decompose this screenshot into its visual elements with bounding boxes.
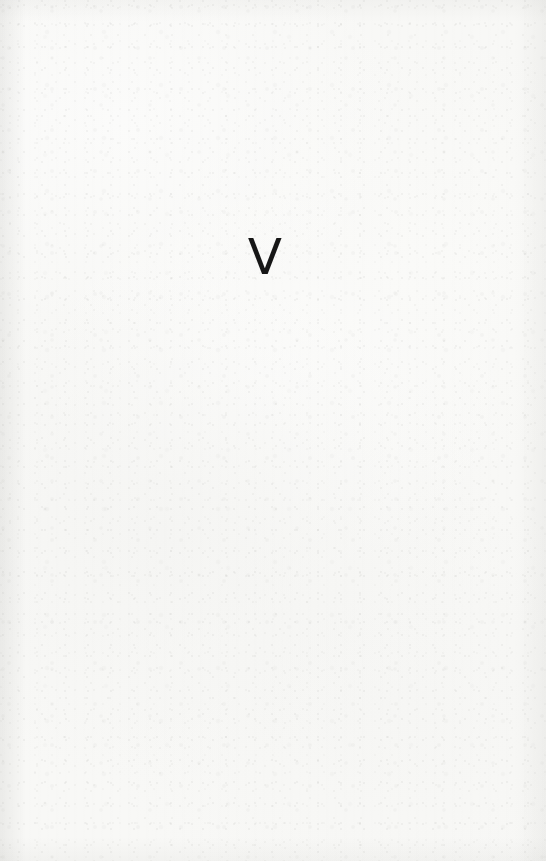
paper-edge-vignette — [0, 0, 546, 861]
scanned-page: V — [0, 0, 546, 861]
